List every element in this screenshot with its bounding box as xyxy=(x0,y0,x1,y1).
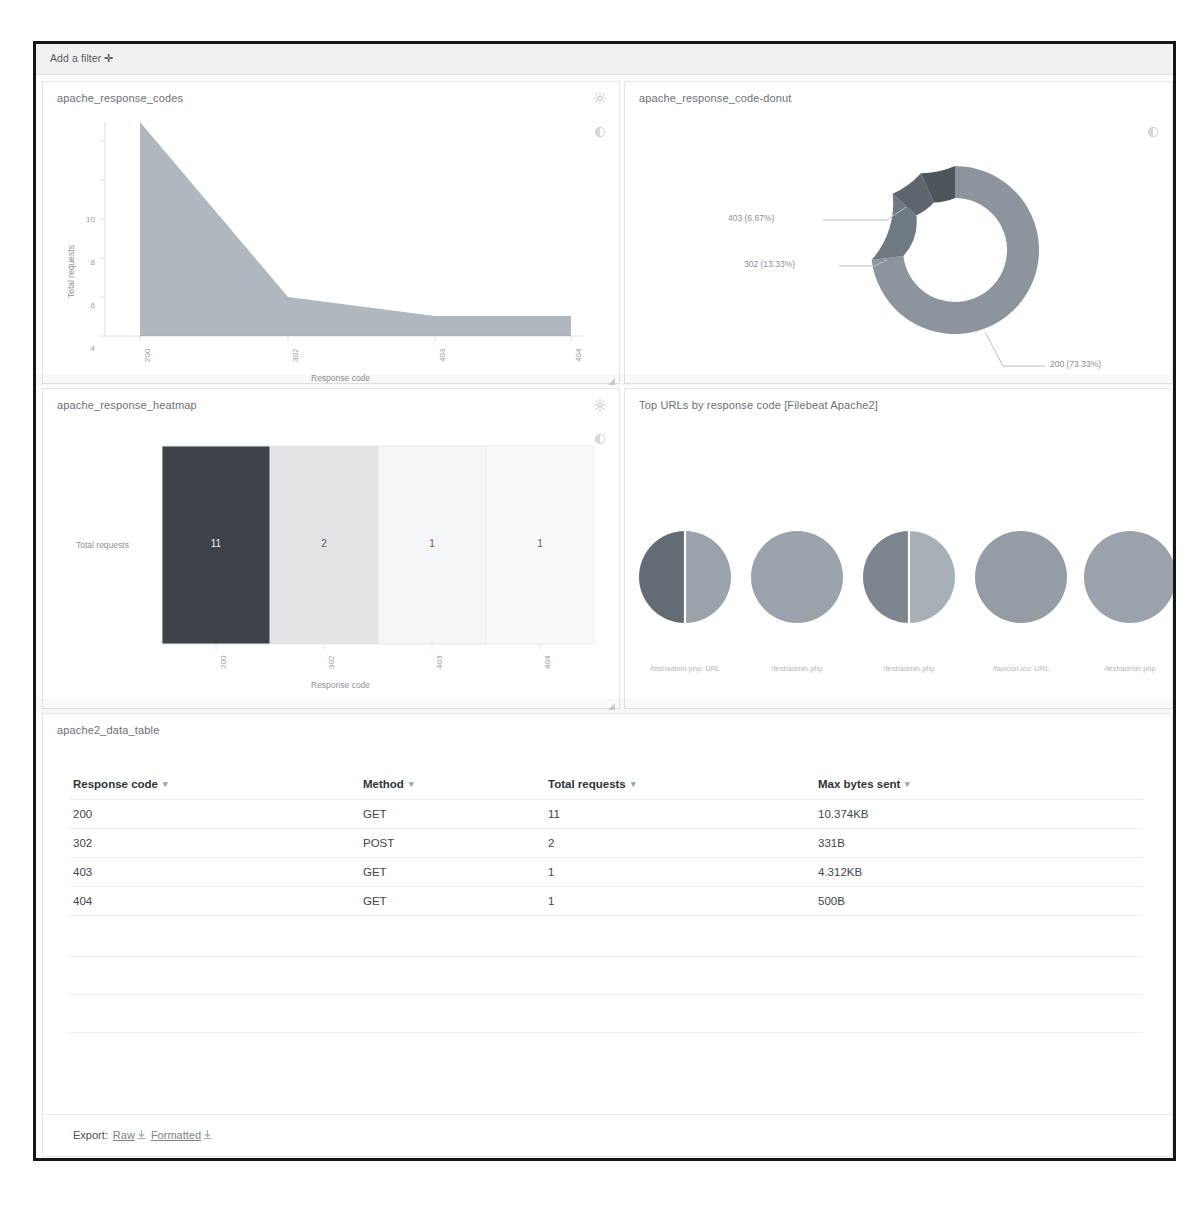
pies-svg xyxy=(625,417,1174,672)
pie-label: /test/admin.php: URL xyxy=(625,664,745,673)
panel-apache-response-codes: apache_response_codes Total requests xyxy=(42,81,620,384)
table-divider xyxy=(69,1032,1143,1033)
gear-icon[interactable] xyxy=(593,91,607,105)
cell-method: GET xyxy=(359,800,544,829)
cell-max-bytes-sent: 4.312KB xyxy=(814,858,1143,887)
cell-max-bytes-sent: 10.374KB xyxy=(814,800,1143,829)
filter-bar: Add a filter✛ xyxy=(36,44,1173,75)
pie-label: /favicon.ico: URL xyxy=(965,664,1077,673)
area-chart-svg xyxy=(43,110,621,358)
export-bar: Export:RawFormatted xyxy=(43,1114,1172,1156)
table-row[interactable]: 404 GET 1 500B xyxy=(69,887,1143,916)
heatmap-x-tick: 403 xyxy=(435,656,444,669)
donut-chart-svg xyxy=(625,110,1174,385)
panel-apache-response-code-donut: apache_response_code-donut xyxy=(624,81,1173,384)
panel-apache-response-heatmap: apache_response_heatmap xyxy=(42,388,620,709)
cell-total-requests: 11 xyxy=(544,800,814,829)
donut-chart: 403 (6.67%) 302 (13.33%) 200 (73.33%) xyxy=(625,110,1172,385)
pie-label: /test/admin.php xyxy=(1074,664,1176,673)
download-icon[interactable] xyxy=(137,1130,146,1140)
heatmap-cell-value[interactable]: 11 xyxy=(162,538,270,549)
table-divider xyxy=(69,994,1143,995)
cell-max-bytes-sent: 500B xyxy=(814,887,1143,916)
export-controls: Export:RawFormatted xyxy=(73,1129,212,1141)
table-row[interactable]: 200 GET 11 10.374KB xyxy=(69,800,1143,829)
plus-icon: ✛ xyxy=(104,52,113,64)
column-header-response-code[interactable]: Response code▾ xyxy=(69,772,359,800)
add-filter-label: Add a filter xyxy=(50,52,101,64)
cell-response-code: 403 xyxy=(69,858,359,887)
download-icon[interactable] xyxy=(203,1130,212,1140)
table-row[interactable]: 302 POST 2 331B xyxy=(69,829,1143,858)
heatmap-cell-value[interactable]: 2 xyxy=(270,538,378,549)
cell-method: GET xyxy=(359,887,544,916)
table-row[interactable]: 403 GET 1 4.312KB xyxy=(69,858,1143,887)
area-x-tick: 302 xyxy=(291,349,300,362)
pie-small-multiples: /test/admin.php: URL /test/admin.php /te… xyxy=(625,417,1172,710)
panel-title-pies: Top URLs by response code [Filebeat Apac… xyxy=(639,399,878,411)
export-raw-link[interactable]: Raw xyxy=(113,1129,135,1141)
column-header-method[interactable]: Method▾ xyxy=(359,772,544,800)
resize-handle-icon[interactable] xyxy=(607,697,616,706)
cell-total-requests: 2 xyxy=(544,829,814,858)
data-table-body: Response code▾ Method▾ Total requests▾ M… xyxy=(43,744,1172,1158)
area-x-tick: 403 xyxy=(438,349,447,362)
panel-options-icon[interactable] xyxy=(1147,124,1159,136)
table-header-row: Response code▾ Method▾ Total requests▾ M… xyxy=(69,772,1143,800)
data-table: Response code▾ Method▾ Total requests▾ M… xyxy=(69,772,1143,916)
column-header-label: Max bytes sent xyxy=(818,778,900,790)
area-x-tick: 404 xyxy=(574,349,583,362)
sort-icon[interactable]: ▾ xyxy=(409,780,414,789)
cell-total-requests: 1 xyxy=(544,887,814,916)
heatmap-x-tick: 200 xyxy=(219,656,228,669)
heatmap-cell-value[interactable]: 1 xyxy=(486,538,594,549)
sort-icon[interactable]: ▾ xyxy=(631,780,636,789)
panel-title-table: apache2_data_table xyxy=(57,724,159,736)
page-root: Add a filter✛ apache_response_codes xyxy=(0,0,1190,1219)
heatmap-x-tick: 404 xyxy=(543,656,552,669)
column-header-label: Total requests xyxy=(548,778,626,790)
cell-response-code: 404 xyxy=(69,887,359,916)
pie-label: /test/admin.php xyxy=(741,664,853,673)
cell-response-code: 302 xyxy=(69,829,359,858)
panel-top-urls-by-response-code: Top URLs by response code [Filebeat Apac… xyxy=(624,388,1173,709)
panel-title-donut: apache_response_code-donut xyxy=(639,92,792,104)
heatmap-chart: Total requests 11 2 1 1 200 302 403 404 … xyxy=(43,417,619,710)
cell-method: POST xyxy=(359,829,544,858)
cell-total-requests: 1 xyxy=(544,858,814,887)
pie-label: /test/admin.php xyxy=(853,664,965,673)
dashboard-frame: Add a filter✛ apache_response_codes xyxy=(33,41,1176,1161)
area-chart: Total requests 10 8 6 4 2 0 xyxy=(43,110,619,385)
donut-label-302: 302 (13.33%) xyxy=(744,259,795,269)
export-formatted-link[interactable]: Formatted xyxy=(151,1129,201,1141)
column-header-max-bytes-sent[interactable]: Max bytes sent▾ xyxy=(814,772,1143,800)
heatmap-x-tick: 302 xyxy=(327,656,336,669)
panel-apache2-data-table: apache2_data_table Response code▾ Method… xyxy=(42,713,1173,1157)
heatmap-x-axis-label: Response code xyxy=(311,680,370,690)
sort-icon[interactable]: ▾ xyxy=(163,780,168,789)
table-divider xyxy=(69,956,1143,957)
heatmap-row-label: Total requests xyxy=(76,540,129,550)
column-header-total-requests[interactable]: Total requests▾ xyxy=(544,772,814,800)
panel-title-area: apache_response_codes xyxy=(57,92,183,104)
column-header-label: Response code xyxy=(73,778,158,790)
export-label: Export: xyxy=(73,1129,108,1141)
heatmap-cell-value[interactable]: 1 xyxy=(378,538,486,549)
cell-max-bytes-sent: 331B xyxy=(814,829,1143,858)
heatmap-svg xyxy=(43,417,621,657)
donut-label-403: 403 (6.67%) xyxy=(728,213,774,223)
panel-title-heatmap: apache_response_heatmap xyxy=(57,399,197,411)
resize-handle-icon[interactable] xyxy=(607,372,616,381)
donut-label-200: 200 (73.33%) xyxy=(1050,359,1101,369)
column-header-label: Method xyxy=(363,778,404,790)
gear-icon[interactable] xyxy=(593,398,607,412)
cell-response-code: 200 xyxy=(69,800,359,829)
area-x-axis-label: Response code xyxy=(311,373,370,383)
add-filter-button[interactable]: Add a filter✛ xyxy=(50,52,114,65)
cell-method: GET xyxy=(359,858,544,887)
sort-icon[interactable]: ▾ xyxy=(905,780,910,789)
area-x-tick: 200 xyxy=(143,349,152,362)
